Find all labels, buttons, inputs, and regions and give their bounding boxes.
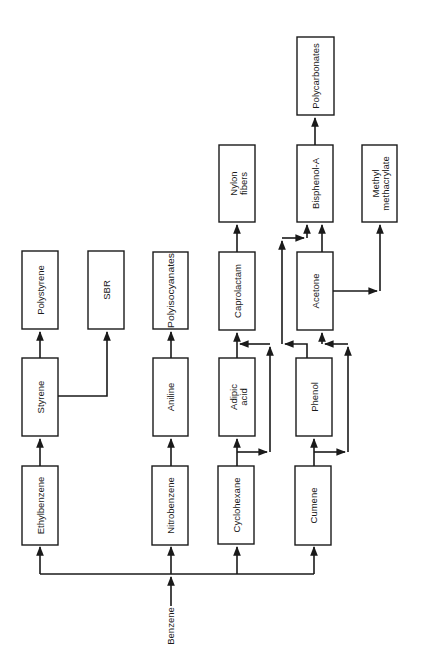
node-nylon-fibers: Nylon fibers — [219, 145, 255, 222]
label-caprolactam: Caprolactam — [232, 264, 243, 318]
node-sbr: SBR — [88, 251, 124, 329]
label-styrene: Styrene — [35, 381, 46, 414]
label-cumene: Cumene — [308, 488, 319, 524]
label-polycarbonates: Polycarbonates — [310, 43, 321, 109]
node-bisphenol-a: Bisphenol-A — [297, 145, 333, 222]
node-ethylbenzene: Ethylbenzene — [22, 466, 58, 545]
label-ethylbenzene: Ethylbenzene — [35, 477, 46, 535]
phenol-left-arrow — [285, 344, 307, 358]
label-mma-line2: methacrylate — [380, 156, 391, 210]
node-polyisocyanates: Polyisocyanates — [153, 252, 188, 329]
label-benzene: Benzene — [165, 607, 176, 645]
label-nitrobenzene: Nitrobenzene — [165, 477, 176, 534]
label-adipic-line2: acid — [238, 388, 249, 405]
node-aniline: Aniline — [153, 358, 188, 436]
benzene-derivatives-flowchart: Ethylbenzene Styrene Polystyrene SBR Nit… — [0, 0, 422, 664]
node-cyclohexane: Cyclohexane — [218, 466, 254, 544]
label-phenol: Phenol — [309, 382, 320, 412]
label-polystyrene: Polystyrene — [35, 265, 46, 315]
node-cumene: Cumene — [295, 466, 331, 545]
node-polystyrene: Polystyrene — [22, 251, 58, 329]
node-acetone: Acetone — [297, 252, 333, 330]
label-acetone: Acetone — [310, 274, 321, 309]
label-bisphenol-a: Bisphenol-A — [310, 157, 321, 209]
styrene-to-sbr-arrow — [58, 332, 107, 396]
node-methyl-methacrylate: Methyl methacrylate — [362, 145, 397, 222]
label-polyisocyanates: Polyisocyanates — [165, 253, 176, 328]
node-polycarbonates: Polycarbonates — [297, 37, 334, 115]
node-nitrobenzene: Nitrobenzene — [152, 466, 188, 545]
label-nylon-line2: fibers — [238, 172, 249, 195]
label-sbr: SBR — [101, 280, 112, 300]
label-aniline: Aniline — [165, 383, 176, 412]
node-caprolactam: Caprolactam — [219, 252, 255, 330]
node-phenol: Phenol — [296, 358, 332, 436]
node-adipic-acid: Adipic acid — [219, 358, 255, 436]
label-cyclohexane: Cyclohexane — [231, 478, 242, 533]
node-styrene: Styrene — [22, 358, 58, 436]
